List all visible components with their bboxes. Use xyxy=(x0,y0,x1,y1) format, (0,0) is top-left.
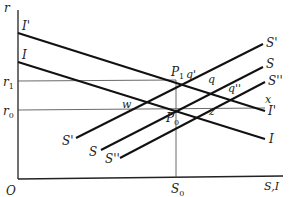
r0-label: r0 xyxy=(3,104,14,120)
r0-guide-line xyxy=(18,108,265,110)
x-axis-label: S,I xyxy=(264,180,280,193)
s-top-label: S xyxy=(266,57,274,71)
savings-curve-s-double-prime xyxy=(120,82,265,158)
q-double-prime-label: q'' xyxy=(228,82,241,95)
s-prime-top-label: S' xyxy=(266,36,278,50)
i-prime-right-label: I' xyxy=(267,104,276,118)
s-double-prime-bottom-label: S'' xyxy=(105,152,120,166)
investment-curve-i-prime xyxy=(18,33,265,111)
y-axis-label: r xyxy=(4,1,11,15)
r1-label: r1 xyxy=(3,75,14,91)
q-label: q xyxy=(208,73,215,86)
z-label: z xyxy=(208,105,215,118)
i-prime-left-label: I' xyxy=(21,19,30,33)
i-right-label: I xyxy=(268,132,274,146)
p1-label: P1 xyxy=(170,65,184,81)
p0-label: P0 xyxy=(165,111,179,127)
r1-guide-line xyxy=(18,80,176,81)
s0-label: S0 xyxy=(171,182,184,197)
origin-label: O xyxy=(6,184,16,197)
x-label: x xyxy=(265,93,272,106)
q-prime-label: q' xyxy=(186,68,196,81)
s-prime-bottom-label: S' xyxy=(62,134,74,148)
s-bottom-label: S xyxy=(89,145,97,159)
x-axis xyxy=(18,176,283,179)
s-double-prime-top-label: S'' xyxy=(268,74,283,88)
w-label: w xyxy=(122,98,132,111)
savings-investment-diagram: r O S,I r1 r0 S0 I' I I' I S' S S'' S' S… xyxy=(0,0,292,197)
i-left-label: I xyxy=(21,48,27,62)
